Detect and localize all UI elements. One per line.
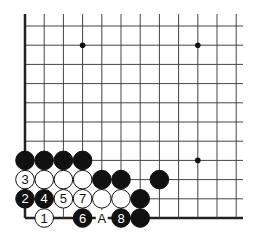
go-board-diagram: 32457168A: [0, 0, 256, 248]
point-label-marker: A: [97, 211, 106, 226]
black-stone: [150, 170, 169, 189]
star-point-icon: [195, 42, 201, 48]
move-number: 3: [21, 172, 28, 187]
black-stone: [131, 209, 150, 228]
white-stone: [93, 190, 112, 209]
black-stone: [54, 151, 73, 170]
black-stone: [93, 170, 112, 189]
move-number: 2: [21, 191, 28, 206]
white-stone: [112, 190, 131, 209]
move-number: 4: [41, 191, 48, 206]
move-number: 8: [117, 211, 124, 226]
black-stone: [131, 190, 150, 209]
black-stone: [73, 151, 92, 170]
black-stone: [16, 151, 35, 170]
black-stone: [35, 151, 54, 170]
star-point-icon: [195, 158, 201, 164]
move-number: 5: [60, 191, 67, 206]
white-stone: [54, 170, 73, 189]
white-stone: [35, 170, 54, 189]
white-stone: [73, 170, 92, 189]
move-number: 7: [79, 191, 86, 206]
move-number: 6: [79, 211, 86, 226]
black-stone: [112, 170, 131, 189]
move-number: 1: [41, 211, 48, 226]
star-point-icon: [80, 42, 86, 48]
